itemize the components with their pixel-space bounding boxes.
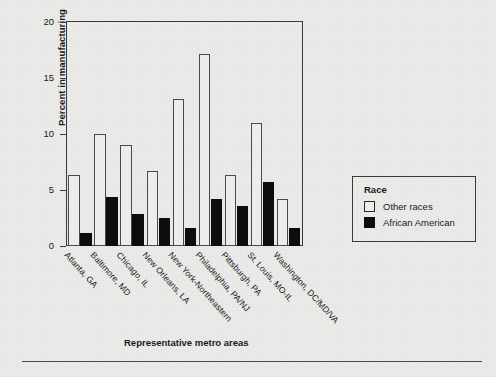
bar-african-american bbox=[106, 197, 117, 246]
bar-group bbox=[251, 22, 277, 246]
footer-rule bbox=[22, 361, 482, 362]
bar-african-american bbox=[289, 228, 300, 246]
y-tick: 0 bbox=[0, 246, 66, 247]
legend-swatch-african-american bbox=[364, 217, 375, 228]
bar-african-american bbox=[132, 214, 143, 246]
bar-african-american bbox=[159, 218, 170, 246]
legend-entry-label: African American bbox=[383, 217, 455, 228]
y-tick-label: 10 bbox=[43, 128, 54, 139]
bar-other-races bbox=[68, 175, 79, 246]
x-axis-title: Representative metro areas bbox=[124, 337, 249, 348]
y-tick-label: 20 bbox=[43, 16, 54, 27]
bar-african-american bbox=[185, 228, 196, 246]
legend-entries: Other racesAfrican American bbox=[364, 201, 475, 228]
bar-african-american bbox=[80, 233, 91, 246]
legend-entry-label: Other races bbox=[383, 201, 433, 212]
y-tick: 20 bbox=[0, 22, 66, 23]
bars-area bbox=[67, 22, 302, 246]
bar-other-races bbox=[251, 123, 262, 246]
legend-box: Race Other racesAfrican American bbox=[352, 176, 476, 242]
y-tick-mark bbox=[60, 246, 66, 247]
legend-swatch-other-races bbox=[364, 201, 375, 212]
bar-group bbox=[94, 22, 120, 246]
chart-page: Percent in manufacturing 05101520 Atlant… bbox=[0, 0, 496, 377]
y-tick: 15 bbox=[0, 78, 66, 79]
y-tick: 5 bbox=[0, 190, 66, 191]
bar-african-american bbox=[237, 206, 248, 246]
legend-entry: African American bbox=[364, 217, 475, 228]
bar-other-races bbox=[277, 199, 288, 246]
bar-group bbox=[277, 22, 303, 246]
bar-group bbox=[199, 22, 225, 246]
bar-other-races bbox=[120, 145, 131, 246]
bar-african-american bbox=[263, 182, 274, 246]
bar-other-races bbox=[94, 134, 105, 246]
y-tick-label: 15 bbox=[43, 72, 54, 83]
bar-other-races bbox=[225, 175, 236, 246]
bar-other-races bbox=[199, 54, 210, 246]
bar-group bbox=[225, 22, 251, 246]
bar-group bbox=[120, 22, 146, 246]
bar-group bbox=[68, 22, 94, 246]
bar-other-races bbox=[147, 171, 158, 246]
bar-african-american bbox=[211, 199, 222, 246]
bar-group bbox=[173, 22, 199, 246]
x-tick-label: St. Louis, MO-IL bbox=[245, 250, 295, 303]
bar-group bbox=[147, 22, 173, 246]
y-tick-label: 5 bbox=[49, 184, 54, 195]
y-tick: 10 bbox=[0, 134, 66, 135]
legend-entry: Other races bbox=[364, 201, 475, 212]
legend-title: Race bbox=[364, 184, 475, 195]
bar-other-races bbox=[173, 99, 184, 246]
y-tick-label: 0 bbox=[49, 240, 54, 251]
